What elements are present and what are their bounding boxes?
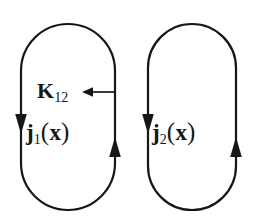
loop-1-label-argument: x (49, 120, 61, 145)
coupling-label-subscript: 12 (54, 90, 68, 105)
loop-1-label-subscript: 1 (34, 132, 41, 147)
loop-1-right-arrowhead-up (109, 137, 121, 157)
loop-2-label-paren-close: ) (187, 118, 196, 145)
figure-canvas (0, 0, 256, 220)
loop-1-label-paren-close: ) (61, 118, 70, 145)
coupling-arrow-group (82, 87, 115, 97)
loop-2-label-symbol: j (152, 120, 160, 145)
loop-2-outline (148, 24, 236, 210)
loop-2-group (142, 24, 242, 210)
loop-1-outline (21, 24, 115, 210)
coupling-label-k12: K12 (37, 80, 68, 105)
loop-2-current-label: j2(x) (152, 119, 196, 147)
loop-2-label-subscript: 2 (160, 132, 167, 147)
loop-2-label-argument: x (175, 120, 187, 145)
coupling-arrow-head-left (82, 87, 93, 97)
loop-1-group (15, 24, 121, 210)
loop-1-label-symbol: j (26, 120, 34, 145)
coupled-current-loops-figure: K12 j1(x) j2(x) (0, 0, 256, 220)
loop-2-right-arrowhead-up (230, 137, 242, 157)
loop-1-current-label: j1(x) (26, 119, 70, 147)
coupling-label-symbol: K (37, 78, 54, 103)
